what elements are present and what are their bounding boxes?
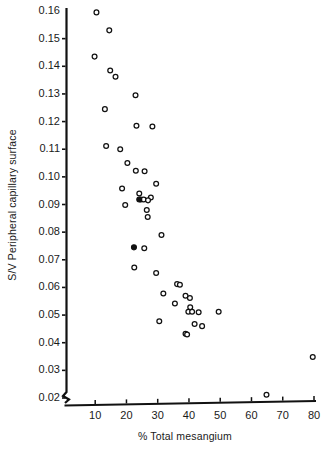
data-point xyxy=(264,392,269,397)
data-point xyxy=(200,324,205,329)
data-point xyxy=(92,54,97,59)
data-point xyxy=(123,203,128,208)
data-point xyxy=(145,215,150,220)
data-point xyxy=(137,197,142,202)
data-point xyxy=(185,332,190,337)
data-point xyxy=(137,191,142,196)
series-open xyxy=(92,10,315,397)
x-tick-label: 40 xyxy=(183,410,195,421)
x-axis-title: % Total mesangium xyxy=(0,430,330,442)
data-point xyxy=(108,68,113,73)
x-axis-title-text: % Total mesangium xyxy=(98,430,232,442)
data-point xyxy=(118,147,123,152)
data-point xyxy=(310,355,315,360)
data-point xyxy=(142,246,147,251)
data-point xyxy=(161,291,166,296)
series-filled xyxy=(131,197,141,250)
data-point xyxy=(125,161,130,166)
data-point xyxy=(107,28,112,33)
x-tick-label: 50 xyxy=(214,410,226,421)
data-point xyxy=(159,233,164,238)
data-point xyxy=(132,265,137,270)
data-point xyxy=(94,10,99,15)
data-point xyxy=(150,124,155,129)
data-point xyxy=(173,301,178,306)
data-point xyxy=(146,198,151,203)
x-tick-label: 60 xyxy=(245,410,257,421)
data-point xyxy=(154,181,159,186)
x-tick-label: 30 xyxy=(152,410,164,421)
data-point xyxy=(178,282,183,287)
x-tick-label: 20 xyxy=(120,410,132,421)
data-point xyxy=(134,123,139,128)
data-point xyxy=(190,309,195,314)
x-tick-label: 80 xyxy=(308,410,320,421)
data-point xyxy=(104,144,109,149)
x-tick-label: 10 xyxy=(89,410,101,421)
data-point xyxy=(131,245,136,250)
x-axis-tick-labels: 1020304050607080 xyxy=(0,405,330,423)
data-point xyxy=(192,322,197,327)
data-point xyxy=(133,168,138,173)
data-point xyxy=(120,186,125,191)
plot-area xyxy=(0,0,330,456)
data-point xyxy=(216,309,221,314)
data-point xyxy=(102,107,107,112)
data-point xyxy=(196,310,201,315)
y-axis-spine xyxy=(63,8,69,403)
scatter-chart-figure: S/V Peripheral capillary surface 0.020.0… xyxy=(0,0,330,456)
data-point xyxy=(133,93,138,98)
data-point xyxy=(154,271,159,276)
data-point xyxy=(188,296,193,301)
data-point xyxy=(113,74,118,79)
x-tick-label: 70 xyxy=(277,410,289,421)
data-point xyxy=(142,169,147,174)
data-point xyxy=(157,319,162,324)
data-point xyxy=(144,208,149,213)
